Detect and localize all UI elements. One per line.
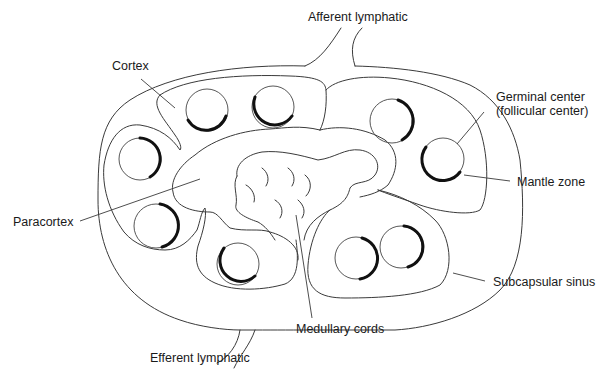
lymph-node-diagram: Afferent lymphatic Cortex Germinal cente… bbox=[0, 0, 613, 371]
mantle-zone bbox=[188, 116, 226, 130]
leader-germinal-center bbox=[457, 112, 484, 144]
mantle-zone bbox=[160, 204, 178, 247]
mantle-zone bbox=[360, 238, 378, 279]
label-efferent-lymphatic: Efferent lymphatic bbox=[150, 351, 250, 365]
label-follicular-center: (follicular center) bbox=[496, 104, 588, 118]
mantle-zone bbox=[404, 226, 423, 267]
label-mantle-zone: Mantle zone bbox=[517, 175, 585, 189]
leader-cortex bbox=[141, 79, 175, 108]
capsule-outline bbox=[98, 66, 523, 330]
cortex-lobe-top bbox=[160, 76, 326, 130]
medullary-cord-squiggles bbox=[246, 168, 310, 218]
mantle-zone bbox=[254, 97, 292, 125]
label-germinal-center: Germinal center bbox=[496, 90, 585, 104]
label-cortex: Cortex bbox=[112, 59, 150, 73]
mantle-zone bbox=[140, 138, 160, 177]
medullary-region bbox=[235, 150, 378, 240]
leader-lines bbox=[80, 79, 510, 318]
label-medullary-cords: Medullary cords bbox=[296, 322, 384, 336]
label-afferent-lymphatic: Afferent lymphatic bbox=[308, 10, 408, 24]
cortex-lobe-right bbox=[326, 77, 487, 213]
mantle-zone bbox=[220, 248, 255, 281]
mantle-zone bbox=[398, 100, 413, 140]
paracortex-region bbox=[172, 127, 320, 260]
label-paracortex: Paracortex bbox=[13, 215, 74, 229]
paracortex-right bbox=[320, 128, 396, 197]
afferent-lymphatic-vessel bbox=[305, 28, 362, 66]
leader-subcapsular bbox=[453, 273, 485, 281]
mantle-zone bbox=[422, 147, 460, 181]
follicles bbox=[119, 86, 464, 285]
cortex-lobe-lower-right bbox=[308, 190, 449, 298]
leader-medullary bbox=[296, 215, 312, 318]
label-subcapsular-sinus: Subcapsular sinus bbox=[493, 275, 595, 289]
